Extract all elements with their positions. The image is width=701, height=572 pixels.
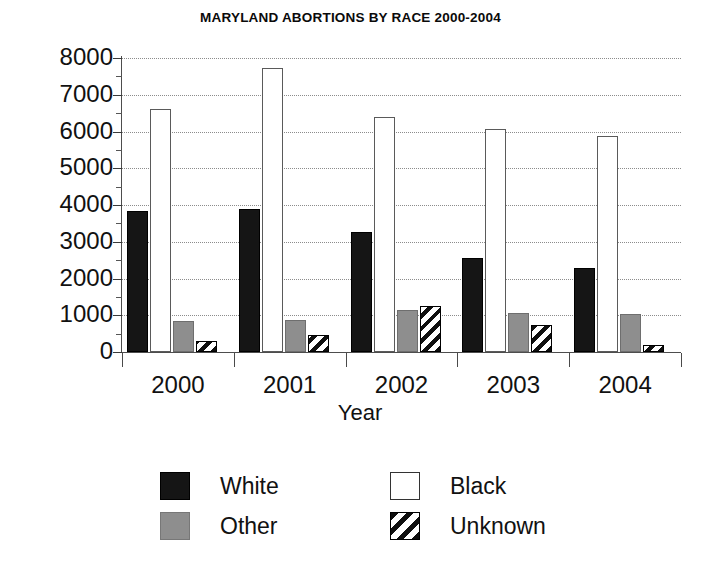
x-tick-separator — [234, 353, 235, 367]
y-tick-mark-minor — [116, 150, 122, 151]
bar-black-2003 — [485, 129, 506, 352]
y-tick-label: 2000 — [0, 266, 113, 290]
bar-white-2002 — [351, 232, 372, 352]
bar-unknown-2000 — [196, 341, 217, 352]
bar-unknown-2002 — [420, 306, 441, 352]
y-tick-label-text: 6000 — [23, 119, 113, 143]
x-tick-separator — [569, 353, 570, 367]
y-tick-mark-minor — [116, 223, 122, 224]
y-tick-label-text: 7000 — [23, 82, 113, 106]
y-tick-mark — [113, 352, 122, 353]
chart-legend: WhiteBlackOtherUnknown — [160, 470, 580, 550]
legend-swatch-white-icon — [160, 472, 190, 500]
bar-white-2003 — [462, 258, 483, 352]
y-tick-label-text: 4000 — [23, 192, 113, 216]
y-tick-mark — [113, 205, 122, 206]
y-tick-label-text: 0 — [23, 339, 113, 363]
gridline — [122, 95, 681, 96]
legend-label-black: Black — [450, 470, 506, 502]
bar-black-2001 — [262, 68, 283, 352]
bar-black-2002 — [374, 117, 395, 352]
y-tick-label: 5000 — [0, 155, 113, 179]
y-tick-mark-minor — [116, 297, 122, 298]
legend-swatch-black-icon — [390, 472, 420, 500]
bar-unknown-2003 — [531, 325, 552, 352]
y-tick-mark-minor — [116, 76, 122, 77]
gridline — [122, 58, 681, 59]
y-tick-label: 6000 — [0, 119, 113, 143]
x-tick-separator — [346, 353, 347, 367]
y-tick-mark-minor — [116, 187, 122, 188]
bar-other-2002 — [397, 310, 418, 352]
bar-unknown-2004 — [643, 345, 664, 352]
y-tick-label: 1000 — [0, 302, 113, 326]
y-tick-mark-minor — [116, 260, 122, 261]
bar-other-2003 — [508, 313, 529, 352]
x-tick-separator — [457, 353, 458, 367]
y-tick-label: 8000 — [0, 45, 113, 69]
y-tick-mark-minor — [116, 334, 122, 335]
y-tick-mark — [113, 58, 122, 59]
legend-label-white: White — [220, 470, 279, 502]
legend-label-unknown: Unknown — [450, 510, 546, 542]
y-tick-label: 0 — [0, 339, 113, 363]
bar-white-2001 — [239, 209, 260, 352]
y-tick-label-text: 8000 — [23, 45, 113, 69]
y-tick-label-text: 2000 — [23, 266, 113, 290]
bar-black-2004 — [597, 136, 618, 352]
x-tick-separator — [122, 353, 123, 367]
y-tick-mark-minor — [116, 113, 122, 114]
y-tick-mark — [113, 95, 122, 96]
legend-label-other: Other — [220, 510, 278, 542]
bar-black-2000 — [150, 109, 171, 352]
y-tick-label: 7000 — [0, 82, 113, 106]
y-tick-label-text: 1000 — [23, 302, 113, 326]
gridline — [122, 132, 681, 133]
x-axis-line — [121, 352, 681, 353]
y-tick-mark — [113, 279, 122, 280]
x-tick-label-2004: 2004 — [570, 372, 680, 398]
x-tick-separator — [681, 353, 682, 367]
y-tick-mark — [113, 315, 122, 316]
y-tick-mark — [113, 168, 122, 169]
bar-other-2000 — [173, 321, 194, 352]
legend-swatch-other-icon — [160, 512, 190, 540]
bar-unknown-2001 — [308, 335, 329, 352]
bar-white-2004 — [574, 268, 595, 352]
y-tick-label-text: 5000 — [23, 155, 113, 179]
bar-other-2001 — [285, 320, 306, 352]
bar-white-2000 — [127, 211, 148, 352]
y-tick-label: 3000 — [0, 229, 113, 253]
x-tick-label-2001: 2001 — [235, 372, 345, 398]
x-tick-label-2000: 2000 — [123, 372, 233, 398]
bar-other-2004 — [620, 314, 641, 352]
y-tick-label-text: 3000 — [23, 229, 113, 253]
legend-swatch-unknown-icon — [390, 512, 420, 540]
y-tick-label: 4000 — [0, 192, 113, 216]
y-tick-mark — [113, 242, 122, 243]
x-tick-label-2002: 2002 — [347, 372, 457, 398]
x-tick-label-2003: 2003 — [458, 372, 568, 398]
y-tick-mark — [113, 132, 122, 133]
x-axis-title: Year — [290, 400, 430, 426]
